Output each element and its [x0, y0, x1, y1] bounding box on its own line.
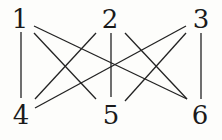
node-label-4: 4 [13, 102, 30, 128]
graph-diagram: 123456 [0, 0, 222, 140]
node-label-6: 6 [192, 102, 209, 128]
node-label-2: 2 [102, 6, 119, 32]
node-label-5: 5 [103, 102, 120, 128]
node-label-1: 1 [12, 6, 29, 32]
node-label-3: 3 [193, 6, 210, 32]
